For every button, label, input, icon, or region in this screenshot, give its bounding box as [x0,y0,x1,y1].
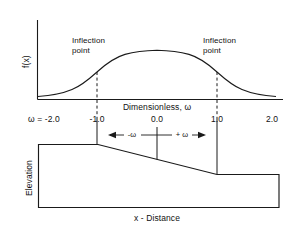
axis-tick-label-4: 2.0 [266,115,278,125]
inflection-label-right-line2: point [203,46,221,56]
bottom-panel-x-axis-label: x - Distance [134,214,180,224]
bottom-panel-y-axis-label: Elevation [25,160,35,196]
axis-tick-label-0: ω = -2.0 [28,115,60,125]
elevation-terrain-profile [39,145,280,208]
inflection-label-right-line1: Inflection [203,36,236,46]
top-panel-x-axis-label: Dimensionless, ω [123,103,191,113]
figure-container: f(x) Inflection point Inflection point D… [0,0,292,235]
direction-label-positive: + ω [176,130,189,140]
normal-distribution-curve [38,50,276,96]
axis-tick-label-3: 1.0 [211,115,223,125]
left-arrow-icon [108,132,116,138]
axis-tick-label-1: -1.0 [89,115,104,125]
inflection-label-left-line2: point [72,46,90,56]
inflection-label-left-line1: Inflection [72,36,105,46]
top-panel-y-axis-label: f(x) [22,55,32,68]
right-arrow-icon [198,132,206,138]
direction-label-negative: -ω [128,130,137,140]
axis-tick-label-2: 0.0 [151,115,163,125]
